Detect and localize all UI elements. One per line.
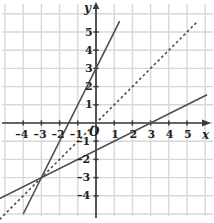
y-tick-label-0: 5 [85, 27, 93, 38]
y-tick-label-4: 1 [85, 99, 93, 110]
x-tick-label-5: 2 [129, 129, 137, 140]
x-tick-label-7: 4 [166, 129, 174, 140]
y-axis-arrow [93, 2, 100, 9]
grid-lines [2, 4, 213, 216]
x-tick-label-8: 5 [184, 129, 192, 140]
coordinate-plane-svg [0, 0, 214, 223]
y-tick-label-8: –4 [77, 190, 90, 201]
y-tick-label-1: 4 [85, 45, 93, 56]
y-tick-label-6: –2 [77, 154, 90, 165]
x-axis-arrow [202, 120, 211, 127]
graph-figure: –4–3–2–11234554321–1–2–3–4 x y O [0, 0, 214, 223]
x-tick-label-0: –4 [15, 129, 28, 140]
x-axis-label: x [202, 129, 209, 141]
series-shallow-solid-line [0, 95, 207, 199]
x-tick-label-6: 3 [148, 129, 156, 140]
y-tick-label-2: 3 [85, 63, 93, 74]
x-tick-label-2: –2 [52, 129, 65, 140]
x-tick-label-1: –3 [33, 129, 46, 140]
y-axis-label: y [84, 2, 91, 14]
y-tick-label-7: –3 [77, 172, 90, 183]
x-tick-label-4: 1 [111, 129, 119, 140]
origin-label: O [89, 126, 99, 138]
y-tick-label-3: 2 [85, 81, 93, 92]
